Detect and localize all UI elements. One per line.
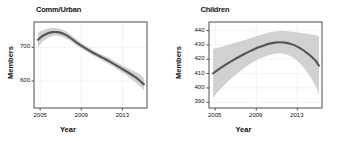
x-tick-label: 2009 <box>244 112 268 118</box>
x-tick-label: 2009 <box>69 112 93 118</box>
y-tick-label: 600 <box>10 77 30 83</box>
y-tick-label: 700 <box>10 43 30 49</box>
y-tick-label: 420 <box>185 55 205 61</box>
x-tick-label: 2013 <box>110 112 134 118</box>
y-tick-label: 440 <box>185 27 205 33</box>
x-tick-label: 2013 <box>285 112 309 118</box>
y-tick-label: 430 <box>185 41 205 47</box>
x-tick-label: 2005 <box>203 112 227 118</box>
panel-comm-urban: Comm/Urban Members Year 6007002005200920… <box>0 0 174 141</box>
y-tick-label: 390 <box>185 98 205 104</box>
y-tick-label: 410 <box>185 70 205 76</box>
x-tick-label: 2005 <box>28 112 52 118</box>
figure-two-panel-trend-plots: Comm/Urban Members Year 6007002005200920… <box>0 0 347 141</box>
panel-children: Children Members Year 390400410420430440… <box>174 0 347 141</box>
plot-area-comm-urban <box>0 0 174 141</box>
y-tick-label: 400 <box>185 84 205 90</box>
